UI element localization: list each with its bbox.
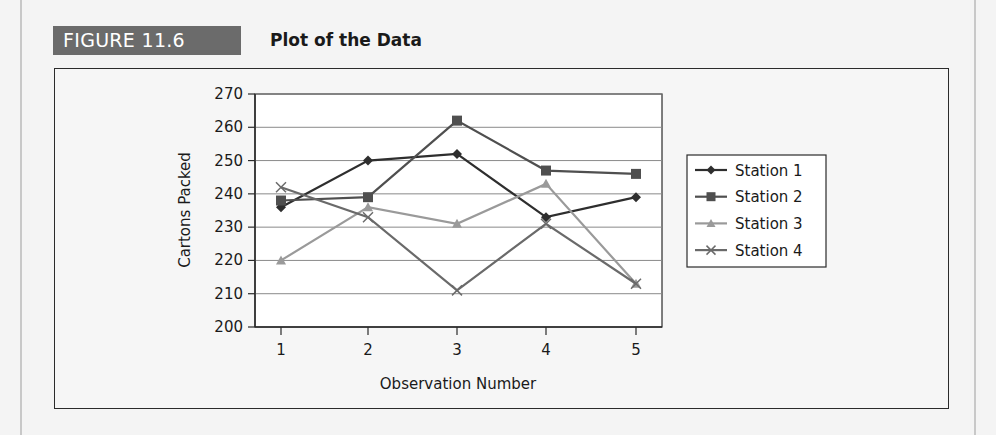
x-axis-title: Observation Number: [380, 375, 537, 393]
y-tick-label: 220: [214, 251, 243, 269]
legend-label: Station 1: [735, 162, 803, 180]
y-tick-label: 270: [214, 85, 243, 103]
square-marker-icon: [363, 192, 373, 202]
y-tick-label: 250: [214, 152, 243, 170]
y-tick-label: 230: [214, 218, 243, 236]
legend-label: Station 3: [735, 215, 803, 233]
y-tick-label: 200: [214, 318, 243, 336]
x-tick-label: 3: [452, 341, 462, 359]
square-marker-icon: [452, 116, 462, 126]
square-marker-icon: [707, 192, 716, 201]
x-tick-label: 5: [631, 341, 641, 359]
y-axis-title: Cartons Packed: [176, 152, 194, 268]
y-axis-ticks: 200210220230240250260270: [214, 85, 255, 336]
square-marker-icon: [541, 166, 551, 176]
square-marker-icon: [276, 196, 286, 206]
y-tick-label: 260: [214, 118, 243, 136]
y-tick-label: 210: [214, 285, 243, 303]
y-tick-label: 240: [214, 185, 243, 203]
x-tick-label: 1: [276, 341, 286, 359]
legend-label: Station 2: [735, 188, 803, 206]
square-marker-icon: [631, 169, 641, 179]
line-chart: 200210220230240250260270 12345 Cartons P…: [0, 0, 996, 435]
x-tick-label: 2: [363, 341, 373, 359]
x-axis-ticks: 12345: [276, 327, 641, 359]
legend-label: Station 4: [735, 242, 803, 260]
legend: Station 1Station 2Station 3Station 4: [687, 155, 826, 267]
x-tick-label: 4: [541, 341, 551, 359]
